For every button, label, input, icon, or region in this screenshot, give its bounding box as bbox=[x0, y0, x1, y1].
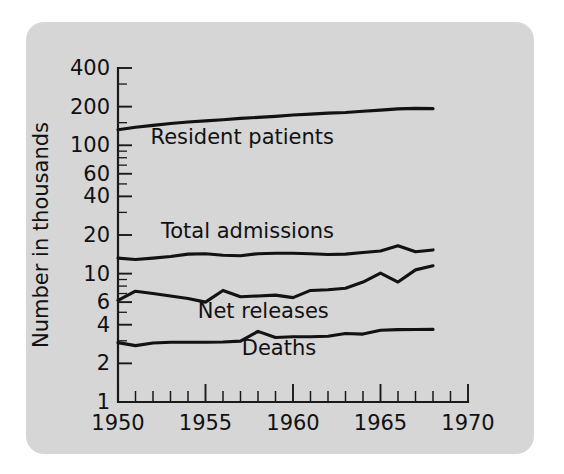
figure-root: 4002001006040201064211950195519601965197… bbox=[0, 0, 564, 474]
x-tick-label: 1970 bbox=[441, 411, 494, 435]
x-tick-label: 1955 bbox=[179, 411, 232, 435]
y-tick-label: 100 bbox=[70, 133, 110, 157]
x-tick-label: 1960 bbox=[266, 411, 319, 435]
y-tick-label: 200 bbox=[70, 95, 110, 119]
y-tick-label: 4 bbox=[97, 313, 110, 337]
y-tick-label: 400 bbox=[70, 56, 110, 80]
x-tick-label: 1965 bbox=[354, 411, 407, 435]
y-tick-label: 6 bbox=[97, 290, 110, 314]
series-label-net-releases: Net releases bbox=[198, 299, 329, 323]
series-line-net-releases bbox=[118, 266, 433, 302]
y-tick-label: 2 bbox=[97, 351, 110, 375]
y-axis-title: Number in thousands bbox=[29, 122, 53, 348]
line-chart: 4002001006040201064211950195519601965197… bbox=[0, 0, 564, 474]
series-line-total-admissions bbox=[118, 246, 433, 260]
y-tick-label: 10 bbox=[83, 262, 110, 286]
series-label-total-admissions: Total admissions bbox=[160, 219, 334, 243]
y-tick-label: 40 bbox=[83, 184, 110, 208]
series-label-deaths: Deaths bbox=[242, 336, 316, 360]
x-tick-label: 1950 bbox=[91, 411, 144, 435]
y-tick-label: 60 bbox=[83, 162, 110, 186]
y-tick-label: 20 bbox=[83, 223, 110, 247]
series-label-resident-patients: Resident patients bbox=[151, 125, 334, 149]
